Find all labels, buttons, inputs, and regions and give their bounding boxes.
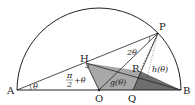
semicircle-diagram: A B O Q P H R θ 2θ π 2 +θ g(θ) h(θ) [0, 0, 195, 105]
label-g-theta: g(θ) [110, 78, 126, 87]
label-pi-num: π [66, 71, 73, 80]
label-h-theta: h(θ) [152, 65, 168, 74]
label-B: B [183, 85, 190, 96]
label-plus-theta: +θ [74, 76, 86, 85]
label-theta: θ [33, 82, 38, 91]
label-Q: Q [128, 93, 136, 104]
label-pi-den: 2 [66, 80, 72, 89]
label-P: P [159, 21, 166, 32]
label-A: A [6, 85, 15, 96]
angle-arc-theta [30, 85, 31, 90]
center-dot-O [98, 89, 100, 91]
label-R: R [132, 63, 140, 74]
label-O: O [95, 93, 103, 104]
label-H: H [80, 53, 89, 64]
label-2theta: 2θ [126, 48, 137, 57]
